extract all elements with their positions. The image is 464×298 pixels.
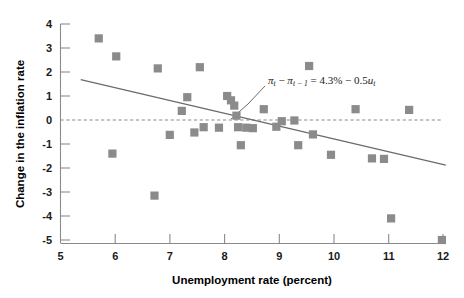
y-tick-label: -5 [42, 234, 52, 246]
data-point-marker [215, 124, 223, 132]
data-point-marker [95, 34, 103, 42]
data-point-marker [196, 63, 204, 71]
data-point-marker [309, 130, 317, 138]
scatter-plot-svg: 4 3 2 1 0 -1 -2 -3 -4 -5 5 6 7 8 9 10 11… [0, 0, 464, 298]
y-tick-label: -4 [42, 210, 53, 222]
data-point-marker [260, 105, 268, 113]
data-point-marker [166, 131, 174, 139]
y-tick-label: -1 [42, 138, 52, 150]
data-point-marker [154, 64, 162, 72]
data-point-marker [380, 155, 388, 163]
y-axis-ticks [61, 24, 71, 240]
y-tick-label: 4 [46, 18, 53, 30]
eq-sub-t-minus-1: t − 1 [293, 79, 308, 88]
y-tick-label: 0 [46, 114, 52, 126]
eq-u-sub: t [373, 79, 376, 88]
data-point-marker [108, 150, 116, 158]
x-tick-label: 11 [383, 250, 395, 262]
data-point-marker [190, 128, 198, 136]
data-point-marker [150, 192, 158, 200]
data-point-marker [294, 141, 302, 149]
x-tick-label: 12 [437, 250, 449, 262]
x-tick-label: 6 [112, 250, 118, 262]
data-point-marker [387, 214, 395, 222]
data-point-marker [230, 102, 238, 110]
data-point-marker [178, 107, 186, 115]
x-tick-label: 7 [167, 250, 173, 262]
data-point-marker [327, 151, 335, 159]
data-point-marker [112, 52, 120, 60]
data-point-marker [405, 106, 413, 114]
y-tick-label: 2 [46, 66, 52, 78]
x-tick-label: 9 [276, 250, 282, 262]
y-tick-label: 3 [46, 42, 52, 54]
data-point-marker [368, 154, 376, 162]
y-tick-label: 1 [46, 90, 52, 102]
x-tick-label: 8 [222, 250, 228, 262]
y-tick-label: -3 [42, 186, 52, 198]
x-axis-title: Unemployment rate (percent) [172, 274, 332, 286]
data-point-marker [200, 123, 208, 131]
regression-fit-line [81, 80, 446, 165]
data-point-group [95, 34, 446, 244]
eq-rhs-b: 0.5 [354, 74, 368, 86]
data-point-marker [438, 236, 446, 244]
regression-equation-annotation: πt − πt − 1 = 4.3% − 0.5ut [268, 74, 376, 88]
data-point-marker [351, 105, 359, 113]
eq-rhs-a: 4.3% [319, 74, 342, 86]
data-point-marker [290, 116, 298, 124]
data-point-marker [234, 123, 242, 131]
data-point-marker [278, 117, 286, 125]
data-point-marker [232, 112, 240, 120]
data-point-marker [183, 93, 191, 101]
data-point-marker [237, 141, 245, 149]
x-tick-label: 10 [328, 250, 340, 262]
data-point-marker [305, 62, 313, 70]
phillips-curve-chart: 4 3 2 1 0 -1 -2 -3 -4 -5 5 6 7 8 9 10 11… [0, 0, 464, 298]
y-tick-label: -2 [42, 162, 52, 174]
data-point-marker [249, 124, 257, 132]
x-tick-label: 5 [57, 250, 63, 262]
y-axis-title: Change in the inflation rate [14, 60, 26, 208]
x-axis-ticks [115, 234, 443, 244]
